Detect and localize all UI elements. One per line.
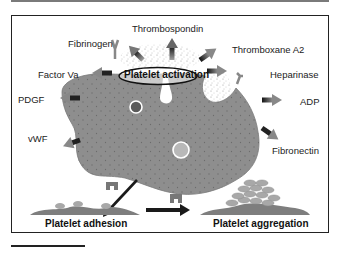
label-thrombospondin: Thrombospondin — [132, 24, 203, 34]
label-thromboxane-a2: Thromboxane A2 — [232, 45, 304, 55]
label-platelet-adhesion: Platelet adhesion — [45, 219, 127, 229]
receptor-top — [112, 40, 118, 59]
receptor-right — [237, 73, 243, 84]
label-heparinase: Heparinase — [270, 70, 319, 80]
label-factor-va: Factor Va — [38, 70, 78, 80]
alpha-granule — [173, 142, 189, 158]
label-platelet-aggregation: Platelet aggregation — [213, 219, 309, 229]
adhesion-surface — [30, 201, 140, 215]
label-pdgf: PDGF — [18, 95, 44, 105]
label-vwf: vWF — [28, 134, 48, 144]
arrow-thromboxane — [197, 44, 220, 65]
label-fibronectin: Fibronectin — [272, 146, 319, 156]
arrow-fibronectin — [259, 123, 282, 144]
dense-granule — [130, 101, 142, 113]
adhesion-foot-left — [106, 182, 118, 190]
label-fibrinogen: Fibrinogen — [68, 39, 113, 49]
label-adp: ADP — [300, 97, 320, 107]
arrow-adhesion-to-aggregation — [146, 204, 190, 216]
arrow-adp — [262, 94, 282, 106]
label-platelet-activation: Platelet activation — [124, 70, 209, 80]
adhesion-foot-right — [170, 194, 182, 203]
